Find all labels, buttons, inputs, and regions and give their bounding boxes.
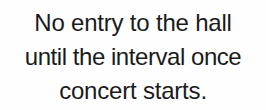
sign-line-2: until the interval once — [0, 40, 266, 74]
notice-sign: No entry to the hall until the interval … — [0, 0, 266, 110]
sign-line-1: No entry to the hall — [0, 6, 266, 40]
sign-line-3: concert starts. — [0, 74, 266, 108]
sign-message: No entry to the hall until the interval … — [0, 6, 266, 108]
